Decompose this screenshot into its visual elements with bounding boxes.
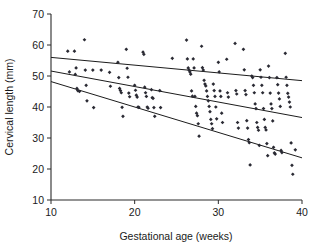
y-axis-title: Cervical length (mm) <box>3 59 15 156</box>
data-point <box>257 128 261 132</box>
data-point <box>211 82 215 86</box>
data-point <box>287 95 291 99</box>
data-point <box>219 95 223 99</box>
data-point <box>208 110 212 114</box>
data-point <box>255 121 259 125</box>
y-tick-label: 10 <box>32 194 44 206</box>
data-point <box>291 172 295 176</box>
data-point <box>276 83 280 87</box>
data-point <box>85 99 89 103</box>
data-point <box>68 70 72 74</box>
data-point <box>234 89 238 93</box>
data-point <box>289 141 293 145</box>
data-point <box>283 52 287 56</box>
data-point <box>268 91 272 95</box>
data-point <box>216 61 220 65</box>
data-point <box>244 93 248 97</box>
data-point <box>254 107 258 111</box>
x-tick-label: 40 <box>296 206 308 218</box>
data-point <box>185 38 189 42</box>
data-point <box>221 121 225 125</box>
data-point <box>263 118 267 122</box>
y-tick-label: 40 <box>32 101 44 113</box>
x-axis-ticks: 10203040 <box>45 200 308 218</box>
data-point <box>269 102 273 106</box>
data-point <box>253 102 257 106</box>
data-point <box>288 105 292 109</box>
data-point <box>109 84 113 88</box>
data-point <box>92 106 96 110</box>
upper-percentile-line <box>51 57 302 80</box>
data-point <box>124 47 128 51</box>
data-point <box>293 148 297 152</box>
data-point <box>190 89 194 93</box>
scatter-plot-svg: 10203040506070 10203040 Gestational age … <box>0 0 315 247</box>
data-point <box>225 57 229 61</box>
data-point <box>290 163 294 167</box>
data-point <box>258 68 262 72</box>
data-point <box>159 106 163 110</box>
data-point <box>265 142 269 146</box>
data-point <box>260 83 264 87</box>
data-point <box>288 100 292 104</box>
data-point <box>144 91 148 95</box>
data-point <box>256 126 260 130</box>
data-point <box>259 75 263 79</box>
data-point <box>277 91 281 95</box>
data-point <box>209 118 213 122</box>
data-point <box>268 76 272 80</box>
data-point <box>261 91 265 95</box>
data-point <box>237 126 241 130</box>
data-point <box>227 95 231 99</box>
y-tick-label: 70 <box>32 8 44 20</box>
x-tick-label: 20 <box>129 206 141 218</box>
data-point <box>243 89 247 93</box>
x-tick-label: 10 <box>45 206 57 218</box>
axes-group <box>51 14 302 200</box>
data-point <box>83 38 87 42</box>
data-point <box>108 70 112 74</box>
y-tick-label: 50 <box>32 70 44 82</box>
data-point <box>191 57 195 61</box>
data-point <box>245 119 249 123</box>
data-point <box>145 95 149 99</box>
data-point <box>278 105 282 109</box>
data-point <box>218 89 222 93</box>
data-point <box>200 44 204 48</box>
data-point <box>246 126 250 130</box>
data-point <box>192 66 196 70</box>
y-axis-ticks: 10203040506070 <box>32 8 51 206</box>
data-point <box>117 76 121 80</box>
data-point <box>226 91 230 95</box>
data-point <box>210 122 214 126</box>
data-point <box>128 95 132 99</box>
data-point <box>285 83 289 87</box>
data-point <box>153 114 157 118</box>
data-point <box>278 97 282 101</box>
data-point <box>233 42 237 46</box>
data-point <box>248 163 252 167</box>
data-point <box>220 111 224 115</box>
data-point <box>242 47 246 51</box>
chart-container: 10203040506070 10203040 Gestational age … <box>0 0 315 247</box>
data-point <box>84 83 88 87</box>
data-point <box>214 105 218 109</box>
x-tick-label: 30 <box>212 206 224 218</box>
data-point <box>152 106 156 110</box>
data-point <box>271 119 275 123</box>
data-point <box>170 56 174 60</box>
data-point <box>121 114 125 118</box>
data-point <box>270 107 274 111</box>
data-points-group <box>66 38 297 176</box>
data-point <box>206 95 210 99</box>
y-tick-label: 20 <box>32 163 44 175</box>
data-point <box>252 91 256 95</box>
data-point <box>126 75 130 79</box>
data-point <box>215 117 219 121</box>
data-point <box>252 83 256 87</box>
data-point <box>235 92 239 96</box>
data-point <box>194 105 198 109</box>
data-point <box>127 91 131 95</box>
data-point <box>267 64 271 68</box>
y-tick-label: 60 <box>32 39 44 51</box>
